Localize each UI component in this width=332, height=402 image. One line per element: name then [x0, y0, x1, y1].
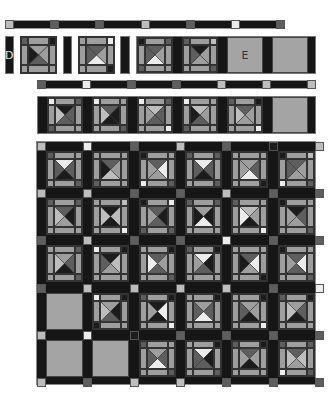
- tile-edge: [190, 65, 210, 72]
- puzzle-tile[interactable]: [182, 37, 218, 73]
- tile-corner-bl: [232, 322, 239, 329]
- tile-edge: [286, 199, 307, 206]
- tile-center-icon: [239, 301, 260, 322]
- tile-corner-br: [260, 274, 267, 281]
- grid-tile[interactable]: [92, 198, 129, 235]
- grid-tile[interactable]: [46, 245, 83, 282]
- empty-slot-labeled[interactable]: E: [227, 37, 263, 73]
- tile-edge: [168, 301, 175, 322]
- grid-tile[interactable]: [278, 151, 315, 188]
- tile-center-icon: [54, 253, 75, 274]
- puzzle-tile[interactable]: [137, 97, 173, 133]
- grid-tile[interactable]: [46, 198, 83, 235]
- grid-empty-cell[interactable]: [92, 340, 129, 377]
- grid-intersection: [176, 331, 185, 340]
- tile-corner-br: [49, 65, 56, 73]
- tile-edge: [186, 301, 193, 322]
- tile-corner-bl: [93, 322, 100, 329]
- grid-empty-cell[interactable]: [46, 340, 83, 377]
- empty-slot[interactable]: [272, 37, 308, 73]
- tile-corner-tr: [121, 294, 128, 301]
- grid-tile[interactable]: [185, 198, 222, 235]
- puzzle-tile[interactable]: [182, 97, 218, 133]
- grid-tile[interactable]: [92, 151, 129, 188]
- tile-corner-tl: [47, 152, 54, 159]
- tile-edge: [239, 341, 260, 348]
- tile-corner-tl: [140, 246, 147, 253]
- puzzle-tile[interactable]: [47, 97, 83, 133]
- empty-slot[interactable]: [272, 97, 308, 133]
- grid-tile[interactable]: [231, 293, 268, 330]
- tile-edge: [147, 369, 168, 376]
- loose-tile[interactable]: [78, 36, 115, 74]
- puzzle-tile[interactable]: [20, 36, 57, 74]
- grid-intersection: [37, 284, 46, 293]
- tile-corner-tl: [47, 246, 54, 253]
- side-piece-d[interactable]: D: [5, 36, 14, 74]
- tile-edge: [168, 348, 175, 369]
- tile-corner-br: [307, 322, 314, 329]
- tile-edge: [47, 159, 54, 180]
- grid-empty-cell[interactable]: [46, 293, 83, 330]
- grid-tile[interactable]: [185, 293, 222, 330]
- grid-tile[interactable]: [139, 245, 176, 282]
- tile-corner-br: [307, 227, 314, 234]
- tile-corner-br: [121, 227, 128, 234]
- tile-corner-tl: [279, 152, 286, 159]
- tile-edge: [279, 206, 286, 227]
- grid-tile[interactable]: [185, 245, 222, 282]
- tile-edge: [121, 253, 128, 274]
- tile-corner-tl: [140, 199, 147, 206]
- tile-corner-bl: [93, 125, 100, 132]
- tile-center-icon: [239, 348, 260, 369]
- puzzle-tile[interactable]: [137, 37, 173, 73]
- grid-tile[interactable]: [46, 151, 83, 188]
- grid-tile[interactable]: [139, 340, 176, 377]
- puzzle-tile[interactable]: [227, 97, 263, 133]
- tile-corner-bl: [279, 274, 286, 281]
- tile-corner-br: [75, 274, 82, 281]
- grid-intersection: [83, 331, 92, 340]
- grid-tile[interactable]: [278, 245, 315, 282]
- edge-marker: [231, 20, 240, 29]
- tile-corner-bl: [186, 180, 193, 187]
- tile-edge: [193, 294, 214, 301]
- grid-tile[interactable]: [278, 198, 315, 235]
- loose-tile[interactable]: [20, 36, 57, 74]
- grid-tile[interactable]: [278, 340, 315, 377]
- puzzle-tile[interactable]: [78, 36, 115, 74]
- separator-bar: [63, 36, 72, 74]
- tile-corner-tr: [307, 341, 314, 348]
- tile-edge: [239, 274, 260, 281]
- tile-edge: [232, 348, 239, 369]
- grid-tile[interactable]: [185, 151, 222, 188]
- grid-tile[interactable]: [278, 293, 315, 330]
- grid-tile[interactable]: [92, 245, 129, 282]
- tile-corner-br: [75, 180, 82, 187]
- tile-edge: [232, 253, 239, 274]
- tile-edge: [21, 45, 28, 65]
- grid-tile[interactable]: [231, 245, 268, 282]
- tile-corner-tr: [75, 199, 82, 206]
- grid-intersection: [176, 378, 185, 387]
- tile-edge: [286, 294, 307, 301]
- grid-tile[interactable]: [231, 151, 268, 188]
- tile-corner-tr: [168, 152, 175, 159]
- grid-tile[interactable]: [231, 198, 268, 235]
- tile-center-icon: [28, 45, 49, 65]
- edge-marker: [95, 20, 104, 29]
- tile-edge: [86, 65, 107, 73]
- tile-edge: [121, 301, 128, 322]
- tile-edge: [47, 253, 54, 274]
- grid-tile[interactable]: [139, 293, 176, 330]
- grid-tile[interactable]: [139, 151, 176, 188]
- grid-tile[interactable]: [185, 340, 222, 377]
- grid-tile[interactable]: [139, 198, 176, 235]
- tile-corner-tl: [186, 246, 193, 253]
- grid-tile[interactable]: [231, 340, 268, 377]
- grid-tile[interactable]: [92, 293, 129, 330]
- tile-edge: [55, 125, 75, 132]
- puzzle-tile[interactable]: [92, 97, 128, 133]
- tile-edge: [214, 253, 221, 274]
- tile-corner-tr: [121, 152, 128, 159]
